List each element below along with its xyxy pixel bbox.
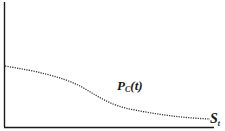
- pc-curve: [5, 66, 210, 119]
- curve-label: PC(t): [117, 78, 143, 94]
- axis-label: St: [210, 111, 220, 128]
- diagram-canvas: [0, 0, 225, 131]
